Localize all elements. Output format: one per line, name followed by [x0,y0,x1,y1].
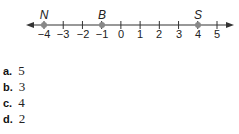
option-d[interactable]: d. 2 [3,110,25,126]
option-letter: d. [3,113,13,125]
option-value: 4 [18,95,25,110]
point-n-dot [41,22,47,28]
option-value: 5 [18,63,25,78]
option-value: 2 [19,111,26,126]
answer-options: a. 5 b. 3 c. 4 d. 2 [3,62,25,126]
tick-label: 4 [195,28,201,40]
tick-label: 2 [156,28,162,40]
tick-label: −1 [96,28,109,40]
tick-label: 3 [176,28,182,40]
point-s-label: S [194,8,202,22]
option-letter: c. [3,97,12,109]
left-arrow-icon [26,22,34,28]
tick-label: −3 [57,28,70,40]
tick-labels: −4 −3 −2 −1 0 1 2 3 4 5 [38,28,220,40]
tick-label: 1 [137,28,143,40]
option-letter: b. [3,81,13,93]
point-s-dot [195,22,201,28]
point-b-dot [99,22,105,28]
option-letter: a. [3,65,12,77]
tick-label: −4 [38,28,51,40]
option-value: 3 [19,79,26,94]
tick-label: 0 [118,28,124,40]
option-c[interactable]: c. 4 [3,94,25,110]
option-a[interactable]: a. 5 [3,62,25,78]
number-line: −4 −3 −2 −1 0 1 2 3 4 5 N B S [0,0,239,45]
tick-label: −2 [77,28,90,40]
point-b-label: B [98,8,106,22]
right-arrow-icon [226,22,234,28]
option-b[interactable]: b. 3 [3,78,25,94]
tick-label: 5 [214,28,220,40]
point-n-label: N [40,8,49,22]
